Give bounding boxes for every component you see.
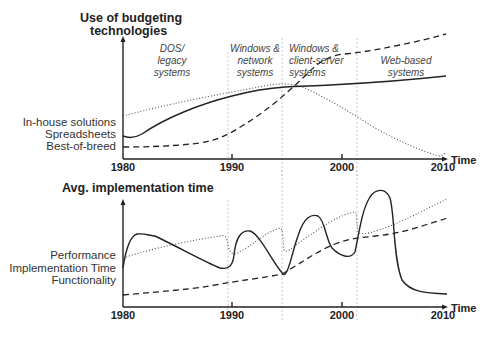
bottom-x-axis-label: Time bbox=[451, 302, 476, 314]
svg-text:legacy: legacy bbox=[158, 55, 188, 66]
svg-text:Web-based: Web-based bbox=[381, 55, 432, 66]
bottom-tick-1980: 1980 bbox=[111, 309, 135, 321]
legend-performance: Performance bbox=[50, 249, 116, 261]
legend-functionality: Functionality bbox=[51, 274, 116, 286]
bottom-chart-title: Avg. implementation time bbox=[62, 181, 214, 195]
era-label-windows-client-server: Windows & client-server systems bbox=[289, 43, 344, 78]
bottom-chart: Avg. implementation time 1980 1990 2000 … bbox=[9, 170, 476, 321]
svg-text:systems: systems bbox=[289, 67, 326, 78]
top-chart-title-line1: Use of budgeting bbox=[80, 11, 182, 25]
top-chart: Use of budgeting technologies DOS/ legac… bbox=[23, 11, 477, 176]
legend-in-house-solutions: In-house solutions bbox=[23, 116, 117, 128]
series-performance bbox=[123, 199, 447, 258]
series-implementation-time bbox=[123, 190, 447, 294]
svg-text:Windows &: Windows & bbox=[230, 43, 280, 54]
series-spreadsheets bbox=[123, 76, 446, 137]
svg-text:network: network bbox=[237, 55, 273, 66]
top-chart-title-line2: technologies bbox=[90, 24, 167, 38]
legend-best-of-breed: Best-of-breed bbox=[46, 140, 116, 152]
top-tick-1990: 1990 bbox=[220, 161, 244, 173]
svg-text:DOS/: DOS/ bbox=[160, 43, 186, 54]
era-label-dos: DOS/ legacy systems bbox=[154, 43, 191, 78]
bottom-tick-1990: 1990 bbox=[220, 309, 244, 321]
legend-spreadsheets: Spreadsheets bbox=[45, 128, 116, 140]
series-functionality bbox=[123, 218, 447, 295]
svg-text:client-server: client-server bbox=[289, 55, 344, 66]
svg-text:systems: systems bbox=[154, 67, 191, 78]
svg-text:systems: systems bbox=[388, 67, 425, 78]
top-tick-2000: 2000 bbox=[330, 161, 354, 173]
top-tick-1980: 1980 bbox=[111, 161, 135, 173]
era-label-web-based: Web-based systems bbox=[381, 55, 432, 78]
top-x-axis-label: Time bbox=[451, 154, 476, 166]
era-label-windows-network: Windows & network systems bbox=[230, 43, 280, 78]
svg-text:systems: systems bbox=[237, 67, 274, 78]
bottom-tick-2000: 2000 bbox=[330, 309, 354, 321]
bottom-y-axis-arrow-icon bbox=[121, 199, 126, 205]
legend-implementation-time: Implementation Time bbox=[9, 262, 116, 274]
chart-figure: Use of budgeting technologies DOS/ legac… bbox=[0, 0, 494, 340]
svg-text:Windows &: Windows & bbox=[289, 43, 339, 54]
